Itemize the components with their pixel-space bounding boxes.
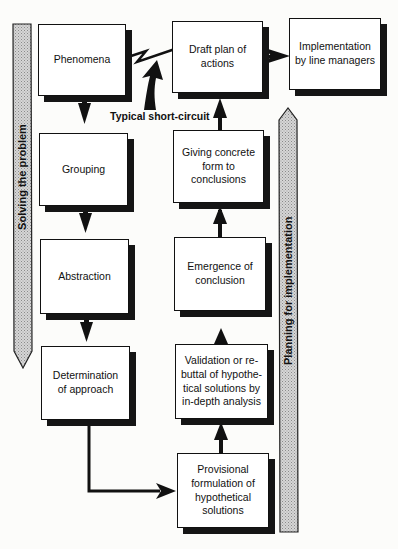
node-implementation: Implementation by line managers (289, 18, 381, 90)
arrow-determination-provisional (89, 424, 176, 499)
node-label: Emergence of conclusion (187, 260, 252, 287)
node-label: Determination of approach (53, 369, 118, 396)
arrow-abstraction-determination (80, 316, 93, 342)
arrow-emergence-giving (213, 206, 227, 238)
node-abstraction: Abstraction (40, 239, 129, 314)
node-giving: Giving concrete form to conclusions (173, 130, 264, 203)
node-label: Implementation by line managers (295, 40, 375, 67)
node-validation: Validation or re- buttal of hypothe- tic… (175, 344, 268, 419)
node-label: Giving concrete form to conclusions (182, 146, 255, 187)
short-circuit-arrow (142, 60, 163, 110)
arrow-draft-implementation (265, 48, 290, 64)
node-phenomena: Phenomena (38, 24, 126, 96)
node-draft: Draft plan of actions (172, 21, 263, 93)
short-circuit-lightning (131, 49, 175, 62)
arrow-phenomena-grouping (78, 97, 91, 124)
right-band-label: Planning for implementation (282, 245, 296, 365)
arrow-provisional-validation (214, 422, 228, 454)
node-label: Validation or re- buttal of hypothe- tic… (181, 354, 262, 409)
node-grouping: Grouping (39, 133, 128, 206)
node-label: Provisional formulation of hypothetical … (191, 463, 255, 518)
node-label: Phenomena (54, 53, 111, 67)
node-label: Abstraction (58, 270, 111, 284)
node-provisional: Provisional formulation of hypothetical … (177, 453, 269, 528)
node-determination: Determination of approach (41, 346, 130, 420)
node-label: Draft plan of actions (189, 43, 246, 70)
node-label: Grouping (62, 163, 105, 177)
node-emergence: Emergence of conclusion (174, 237, 266, 311)
arrow-grouping-abstraction (79, 207, 92, 233)
left-band-label: Solving the problem (16, 117, 30, 237)
short-circuit-label: Typical short-circuit (110, 110, 210, 122)
arrow-giving-draft (213, 98, 227, 130)
